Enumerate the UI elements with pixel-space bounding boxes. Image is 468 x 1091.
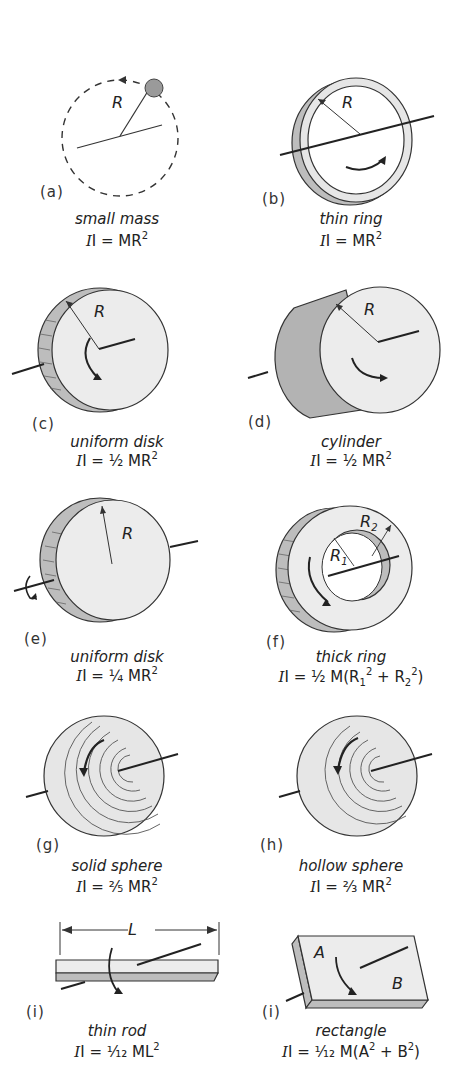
inertia-formula: II = MR2 — [234, 230, 468, 250]
radius-label: R — [342, 93, 353, 112]
shape-name: hollow sphere — [234, 857, 468, 875]
panel-d-cylinder: R (d) cylinder II = ½ MR2 — [234, 250, 468, 465]
panel-tag: (g) — [36, 836, 60, 854]
inertia-formula: II = ¼ MR2 — [0, 665, 234, 685]
inertia-formula: II = ²⁄₅ MR2 — [0, 876, 234, 896]
panel-h-hollow-sphere: (h) hollow sphere II = ²⁄₃ MR2 — [234, 700, 468, 900]
shape-name: cylinder — [234, 433, 468, 451]
radius-label: R — [112, 93, 123, 112]
inertia-formula: II = ¹⁄₁₂ M(A2 + B2) — [234, 1041, 468, 1061]
inertia-formula: II = ½ MR2 — [234, 450, 468, 470]
side-b-label: B — [392, 974, 403, 993]
panel-i-thin-rod: L (i) thin rod II = ¹⁄₁₂ ML2 — [0, 900, 234, 1060]
panel-tag: (b) — [262, 190, 286, 208]
length-label: L — [128, 920, 137, 939]
shape-name: thick ring — [234, 648, 468, 666]
cropped-caption — [24, 1084, 444, 1091]
panel-e-uniform-disk-diameter: R (e) uniform disk II = ¼ MR2 — [0, 480, 234, 680]
panel-j-rectangle: A B (i) rectangle II = ¹⁄₁₂ M(A2 + B2) — [234, 900, 468, 1060]
panel-tag: (h) — [260, 836, 284, 854]
radius-label: R — [122, 524, 133, 543]
outer-radius-label: R2 — [360, 512, 378, 533]
thin-ring-figure — [234, 0, 468, 245]
inertia-formula: II = ½ M(R12 + R22) — [234, 666, 468, 688]
panel-tag: (i) — [26, 1003, 45, 1021]
point-mass-icon — [145, 79, 163, 97]
shape-name: uniform disk — [0, 433, 234, 451]
panel-a-small-mass: R (a) small mass II = MR2 — [0, 0, 234, 245]
panel-tag: (a) — [40, 183, 64, 201]
small-mass-orbit-figure — [0, 0, 234, 245]
panel-tag: (d) — [248, 413, 272, 431]
panel-tag: (e) — [24, 630, 48, 648]
orbit-arrow-icon — [118, 76, 126, 84]
panel-tag: (i) — [262, 1003, 281, 1021]
inertia-formula: II = ²⁄₃ MR2 — [234, 876, 468, 896]
shape-name: rectangle — [234, 1022, 468, 1040]
panel-f-thick-ring: R2 R1 (f) thick ring II = ½ M(R12 + R22) — [234, 480, 468, 695]
radius-label: R — [364, 300, 375, 319]
radius-label: R — [94, 302, 105, 321]
side-a-label: A — [314, 943, 325, 962]
panel-b-thin-ring: R (b) thin ring II = MR2 — [234, 0, 468, 245]
panel-tag: (c) — [32, 415, 55, 433]
shape-name: thin rod — [0, 1022, 234, 1040]
panel-g-solid-sphere: (g) solid sphere II = ²⁄₅ MR2 — [0, 700, 234, 900]
shape-name: solid sphere — [0, 857, 234, 875]
inertia-formula: II = MR2 — [0, 230, 234, 250]
inertia-formula: II = ¹⁄₁₂ ML2 — [0, 1041, 234, 1061]
panel-c-uniform-disk: R (c) uniform disk II = ½ MR2 — [0, 250, 234, 460]
shape-name: uniform disk — [0, 648, 234, 666]
inner-radius-label: R1 — [330, 546, 348, 567]
shape-name: thin ring — [234, 210, 468, 228]
inertia-formula: II = ½ MR2 — [0, 450, 234, 470]
shape-name: small mass — [0, 210, 234, 228]
